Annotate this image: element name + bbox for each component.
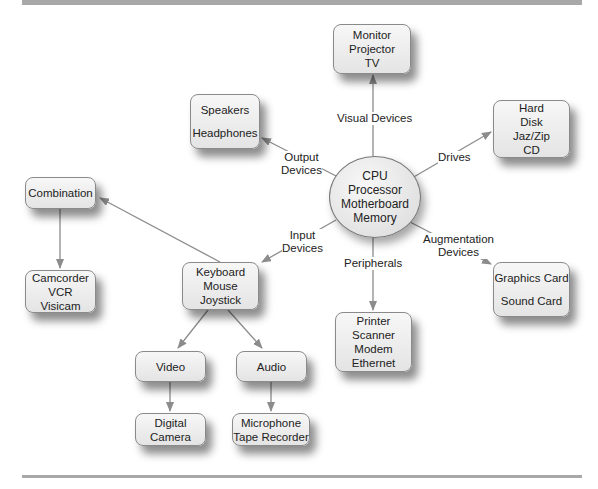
node-combination: Combination — [25, 177, 96, 209]
edge-audio — [228, 310, 262, 348]
edge-label-line: Visual Devices — [337, 112, 412, 124]
edge-label-peripherals: Peripherals — [344, 257, 402, 270]
node-line: Scanner — [352, 328, 395, 342]
hub-line: Memory — [353, 211, 396, 225]
node-line: Mouse — [203, 279, 238, 293]
node-line: Hard — [519, 101, 544, 115]
node-line: Joystick — [200, 293, 241, 307]
node-line: Modem — [354, 342, 392, 356]
edge-label-line: Peripherals — [344, 257, 402, 269]
node-line: Camera — [150, 430, 191, 444]
node-audio: Audio — [236, 351, 307, 382]
edge-label-line: Devices — [423, 246, 494, 259]
node-line: Visicam — [40, 299, 80, 313]
node-line: Projector — [349, 42, 395, 56]
node-line: Ethernet — [352, 356, 395, 370]
edge-label-line: Drives — [438, 151, 471, 163]
node-line: Headphones — [192, 126, 257, 140]
bottom-rule — [22, 475, 582, 478]
hub-cpu-node: CPU Processor Motherboard Memory — [329, 156, 421, 238]
node-line: Disk — [520, 115, 542, 129]
node-drives: Hard Disk Jaz/Zip CD — [493, 100, 570, 158]
node-line: Jaz/Zip — [513, 129, 550, 143]
edge-label-drives: Drives — [438, 151, 471, 164]
node-line: Speakers — [201, 103, 250, 117]
node-peripherals: Printer Scanner Modem Ethernet — [335, 312, 412, 372]
hub-line: CPU — [362, 169, 387, 183]
node-line: Digital — [155, 416, 187, 430]
node-input-devices: Keyboard Mouse Joystick — [182, 262, 259, 310]
node-line: Microphone — [241, 416, 301, 430]
node-line: Graphics Card — [494, 271, 568, 285]
node-digital-camera: Digital Camera — [135, 413, 206, 446]
node-augmentation-devices: Graphics Card Sound Card — [493, 262, 570, 317]
node-line: Tape Recorder — [233, 430, 308, 444]
hub-line: Processor — [348, 183, 402, 197]
node-line: Video — [156, 360, 185, 374]
edge-label-output: Output Devices — [281, 151, 322, 177]
node-line: VCR — [48, 285, 72, 299]
hub-line: Motherboard — [341, 197, 409, 211]
node-line: Keyboard — [196, 265, 245, 279]
node-line: Audio — [257, 360, 286, 374]
edge-label-line: Input — [282, 229, 323, 242]
node-video: Video — [135, 351, 206, 382]
edge-label-line: Devices — [282, 242, 323, 255]
node-output-devices: Speakers Headphones — [190, 94, 260, 149]
node-line: Sound Card — [501, 294, 562, 308]
node-visual-devices: Monitor Projector TV — [333, 24, 411, 74]
node-line: Combination — [28, 186, 93, 200]
node-line: Camcorder — [32, 271, 89, 285]
node-line: CD — [523, 143, 540, 157]
node-line: Printer — [357, 314, 391, 328]
edge-label-line: Augmentation — [423, 233, 494, 246]
node-line: TV — [365, 56, 380, 70]
edge-label-visual: Visual Devices — [337, 112, 412, 125]
edge-label-input: Input Devices — [282, 229, 323, 255]
edge-label-augmentation: Augmentation Devices — [423, 233, 494, 259]
edge-label-line: Devices — [281, 164, 322, 177]
node-camcorder: Camcorder VCR Visicam — [25, 270, 96, 313]
edge-combination — [100, 198, 220, 262]
node-line: Monitor — [353, 28, 391, 42]
edge-label-line: Output — [281, 151, 322, 164]
edge-video — [178, 310, 208, 348]
node-microphone: Microphone Tape Recorder — [232, 413, 310, 446]
